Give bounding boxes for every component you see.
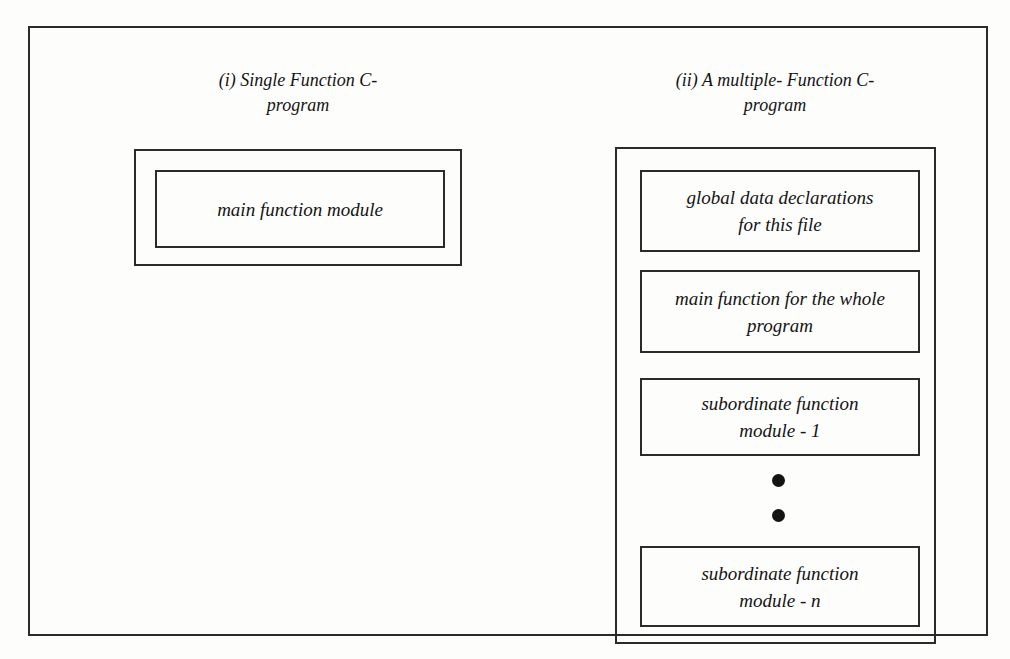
global-data-declarations-box: global data declarations for this file [640, 170, 920, 252]
main-function-module-box: main function module [155, 170, 445, 248]
main-function-module-label: main function module [157, 196, 443, 223]
subordinate-function-module-1-label: subordinate function module - 1 [642, 390, 918, 444]
global-data-declarations-label: global data declarations for this file [642, 184, 918, 238]
main-function-whole-program-box: main function for the whole program [640, 270, 920, 353]
single-function-outer-box: main function module [134, 149, 462, 266]
vertical-ellipsis-icon [772, 474, 786, 522]
subordinate-function-module-n-label: subordinate function module - n [642, 560, 918, 614]
panel-caption-multiple-function: (ii) A multiple- Function C- program [620, 68, 930, 118]
figure-canvas: (i) Single Function C- program main func… [0, 0, 1010, 659]
ellipsis-dot [772, 509, 785, 522]
subordinate-function-module-n-box: subordinate function module - n [640, 546, 920, 627]
main-function-whole-program-label: main function for the whole program [642, 285, 918, 339]
panel-caption-single-function: (i) Single Function C- program [148, 68, 448, 118]
multiple-function-outer-box: global data declarations for this file m… [615, 147, 936, 644]
subordinate-function-module-1-box: subordinate function module - 1 [640, 378, 920, 456]
ellipsis-dot [772, 474, 785, 487]
figure-outer-frame: (i) Single Function C- program main func… [28, 26, 988, 636]
